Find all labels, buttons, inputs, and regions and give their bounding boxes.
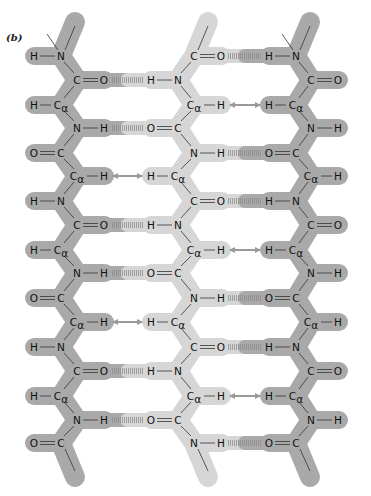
- atom-h: H: [147, 365, 155, 377]
- atom-h: H: [100, 122, 108, 134]
- atom-h: H: [334, 267, 342, 279]
- atom-o: O: [100, 74, 108, 86]
- atom-c: C: [174, 267, 181, 279]
- atom-c: C: [190, 50, 197, 62]
- atom-o: O: [147, 122, 155, 134]
- atom-h: H: [265, 390, 273, 402]
- atom-c: C: [174, 122, 181, 134]
- atom-h: H: [265, 195, 273, 207]
- atom-n: N: [73, 414, 81, 426]
- atom-h: H: [265, 341, 273, 353]
- atom-h: H: [147, 74, 155, 86]
- hydrogen-bond: [228, 344, 262, 350]
- atom-c: C: [292, 292, 299, 304]
- atom-o: O: [265, 437, 273, 449]
- atom-n: N: [174, 365, 182, 377]
- atom-h: H: [217, 244, 225, 256]
- atom-n: N: [57, 195, 65, 207]
- atom-o: O: [30, 437, 38, 449]
- atom-h: H: [217, 390, 225, 402]
- atom-o: O: [217, 50, 225, 62]
- atom-n: N: [190, 292, 198, 304]
- hydrogen-bond: [228, 295, 262, 301]
- atom-o: O: [265, 147, 273, 159]
- atom-h: H: [334, 414, 342, 426]
- hydrogen-bond: [228, 53, 262, 59]
- atom-h: H: [265, 50, 273, 62]
- atom-n: N: [307, 122, 315, 134]
- atom-n: N: [292, 341, 300, 353]
- atom-n: N: [292, 195, 300, 207]
- atom-o: O: [30, 147, 38, 159]
- atom-c: C: [307, 365, 314, 377]
- atom-o: O: [334, 74, 342, 86]
- atom-c: C: [57, 437, 64, 449]
- atom-o: O: [100, 365, 108, 377]
- atom-h: H: [30, 50, 38, 62]
- hydrogen-bond: [228, 150, 262, 156]
- atom-h: H: [30, 390, 38, 402]
- atom-n: N: [190, 147, 198, 159]
- atom-c: C: [73, 74, 80, 86]
- atom-h: H: [30, 341, 38, 353]
- hydrogen-bond: [111, 125, 144, 131]
- atom-h: H: [100, 414, 108, 426]
- atom-h: H: [334, 122, 342, 134]
- atom-c: C: [190, 341, 197, 353]
- hydrogen-bond: [228, 198, 262, 204]
- hydrogen-bond: [111, 270, 144, 276]
- atom-o: O: [265, 292, 273, 304]
- left-strand: [34, 22, 105, 477]
- atom-h: H: [30, 195, 38, 207]
- atom-o: O: [147, 267, 155, 279]
- atom-o: O: [334, 365, 342, 377]
- atom-o: O: [30, 292, 38, 304]
- hydrogen-bond: [111, 417, 144, 423]
- atom-h: H: [100, 316, 108, 328]
- atom-h: H: [217, 147, 225, 159]
- atom-c: C: [57, 147, 64, 159]
- atom-h: H: [265, 244, 273, 256]
- atom-n: N: [73, 122, 81, 134]
- atom-h: H: [265, 99, 273, 111]
- atom-o: O: [217, 341, 225, 353]
- atom-c: C: [292, 147, 299, 159]
- atom-h: H: [217, 292, 225, 304]
- atom-h: H: [334, 170, 342, 182]
- right-strand: [269, 22, 339, 477]
- atom-h: H: [147, 316, 155, 328]
- atom-o: O: [217, 195, 225, 207]
- atom-n: N: [174, 74, 182, 86]
- atom-c: C: [174, 414, 181, 426]
- atom-h: H: [30, 99, 38, 111]
- atom-c: C: [73, 365, 80, 377]
- atom-n: N: [57, 50, 65, 62]
- atom-n: N: [73, 267, 81, 279]
- atom-h: H: [217, 99, 225, 111]
- hydrogen-bond: [228, 440, 262, 446]
- atom-h: H: [217, 437, 225, 449]
- atom-h: H: [334, 316, 342, 328]
- atom-h: H: [30, 244, 38, 256]
- atom-c: C: [292, 437, 299, 449]
- atom-o: O: [100, 219, 108, 231]
- atom-c: C: [57, 292, 64, 304]
- atom-h: H: [147, 170, 155, 182]
- atom-o: O: [334, 219, 342, 231]
- atom-n: N: [292, 50, 300, 62]
- atom-h: H: [147, 219, 155, 231]
- atom-c: C: [307, 219, 314, 231]
- atom-n: N: [57, 341, 65, 353]
- atom-n: N: [307, 414, 315, 426]
- atom-c: C: [190, 195, 197, 207]
- atom-c: C: [307, 74, 314, 86]
- atom-c: C: [73, 219, 80, 231]
- hydrogen-bond: [111, 368, 144, 374]
- atom-n: N: [174, 219, 182, 231]
- hydrogen-bond: [111, 77, 144, 83]
- atom-h: H: [100, 170, 108, 182]
- hydrogen-bond: [111, 222, 144, 228]
- beta-sheet-diagram: HNCOHCαNHOCCαHHNCOHCαNHOCCαHHNCOHCαNHOCC…: [0, 0, 371, 496]
- atom-n: N: [307, 267, 315, 279]
- atom-h: H: [100, 267, 108, 279]
